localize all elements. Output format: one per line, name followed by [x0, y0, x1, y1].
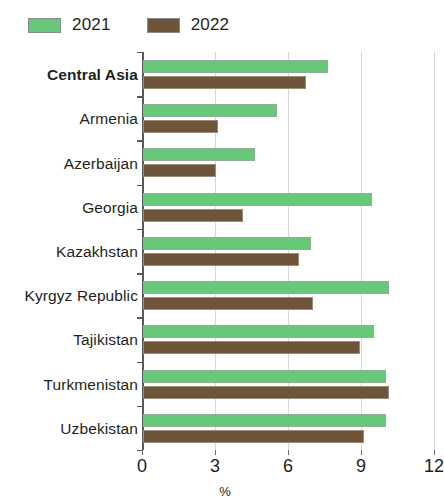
bar-2021-kyrgyz-republic — [143, 281, 389, 294]
category-label-central-asia: Central Asia — [0, 67, 138, 82]
legend-swatch-2021-icon — [28, 18, 61, 33]
bar-2022-kazakhstan — [143, 253, 299, 266]
x-axis-tick — [142, 450, 143, 455]
x-axis-tick-labels: 036912 — [0, 456, 444, 482]
x-axis-tick-label: 3 — [210, 456, 220, 477]
legend-entry-2021: 2021 — [28, 15, 111, 35]
x-axis-tick-label: 12 — [424, 456, 444, 477]
x-axis-title: % — [0, 484, 444, 499]
y-axis-tick — [137, 406, 142, 407]
plot-area — [142, 52, 434, 450]
category-axis: Central AsiaArmeniaAzerbaijanGeorgiaKaza… — [0, 52, 138, 450]
y-axis-tick — [137, 140, 142, 141]
x-axis-tick — [434, 450, 435, 455]
bar-2022-azerbaijan — [143, 164, 216, 177]
x-axis-tick — [288, 450, 289, 455]
bar-2021-azerbaijan — [143, 148, 255, 161]
chart-legend: 2021 2022 — [0, 10, 444, 40]
bar-2021-kazakhstan — [143, 237, 311, 250]
x-axis-tick-label: 9 — [356, 456, 366, 477]
category-label-turkmenistan: Turkmenistan — [0, 377, 138, 392]
category-label-uzbekistan: Uzbekistan — [0, 421, 138, 436]
legend-entry-2022: 2022 — [147, 15, 230, 35]
y-axis-tick — [137, 52, 142, 53]
x-axis-tick — [361, 450, 362, 455]
y-axis-end-tick — [137, 450, 142, 451]
y-axis-tick — [137, 229, 142, 230]
gridline — [434, 52, 435, 450]
y-axis-tick — [137, 362, 142, 363]
y-axis-tick — [137, 317, 142, 318]
bar-2022-central-asia — [143, 76, 306, 89]
x-axis-tick-label: 0 — [137, 456, 147, 477]
bar-2022-armenia — [143, 120, 218, 133]
y-axis-tick — [137, 96, 142, 97]
bar-2021-central-asia — [143, 60, 328, 73]
category-label-armenia: Armenia — [0, 111, 138, 126]
legend-label-2022: 2022 — [191, 15, 230, 35]
legend-label-2021: 2021 — [72, 15, 111, 35]
category-label-kyrgyz-republic: Kyrgyz Republic — [0, 288, 138, 303]
bar-chart: Central AsiaArmeniaAzerbaijanGeorgiaKaza… — [0, 52, 444, 504]
category-label-georgia: Georgia — [0, 200, 138, 215]
bar-2022-uzbekistan — [143, 430, 364, 443]
bar-2022-turkmenistan — [143, 386, 389, 399]
bar-2022-tajikistan — [143, 341, 360, 354]
bar-2021-armenia — [143, 104, 277, 117]
category-label-tajikistan: Tajikistan — [0, 332, 138, 347]
bar-2021-turkmenistan — [143, 370, 386, 383]
category-label-azerbaijan: Azerbaijan — [0, 156, 138, 171]
category-label-kazakhstan: Kazakhstan — [0, 244, 138, 259]
legend-swatch-2022-icon — [147, 18, 180, 33]
x-axis-tick-label: 6 — [283, 456, 293, 477]
bar-2021-uzbekistan — [143, 414, 386, 427]
bar-2022-georgia — [143, 209, 243, 222]
bar-2022-kyrgyz-republic — [143, 297, 313, 310]
x-axis-title-text: % — [219, 484, 231, 499]
x-axis-tick — [215, 450, 216, 455]
bar-2021-tajikistan — [143, 325, 374, 338]
bar-2021-georgia — [143, 193, 372, 206]
y-axis-tick — [137, 185, 142, 186]
y-axis-tick — [137, 273, 142, 274]
